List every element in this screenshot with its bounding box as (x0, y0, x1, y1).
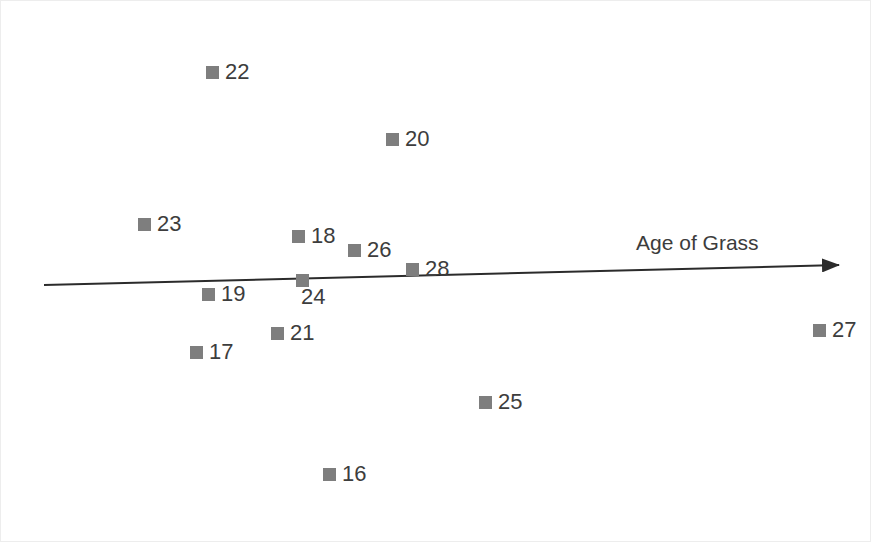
data-point-label: 28 (425, 258, 449, 280)
x-axis-label: Age of Grass (636, 231, 759, 255)
data-point-label: 26 (367, 239, 391, 261)
data-point-label: 19 (221, 283, 245, 305)
data-point-label: 24 (301, 286, 325, 308)
plot-area: Age of Grass 22202318262819242117272516 (1, 1, 871, 542)
data-point-label: 18 (311, 225, 335, 247)
data-point[interactable]: 26 (348, 239, 391, 261)
data-point[interactable]: 27 (813, 319, 856, 341)
data-point-marker-icon (138, 218, 151, 231)
data-point-marker-icon (813, 324, 826, 337)
data-point-marker-icon (348, 244, 361, 257)
data-point-marker-icon (271, 327, 284, 340)
data-point[interactable]: 20 (386, 128, 429, 150)
data-point-label: 22 (225, 61, 249, 83)
data-point-label: 16 (342, 463, 366, 485)
data-point[interactable]: 19 (202, 283, 245, 305)
data-point-marker-icon (406, 263, 419, 276)
data-point-label: 20 (405, 128, 429, 150)
data-point-label: 23 (157, 213, 181, 235)
data-point-label: 17 (209, 341, 233, 363)
data-point-label: 25 (498, 391, 522, 413)
data-point[interactable]: 24 (296, 274, 309, 287)
data-point[interactable]: 22 (206, 61, 249, 83)
data-point-marker-icon (206, 66, 219, 79)
data-point-marker-icon (323, 468, 336, 481)
data-point-label: 21 (290, 322, 314, 344)
data-point-marker-icon (479, 396, 492, 409)
data-point[interactable]: 16 (323, 463, 366, 485)
data-point-marker-icon (386, 133, 399, 146)
data-point-marker-icon (190, 346, 203, 359)
scatter-plot-figure: Age of Grass 22202318262819242117272516 (0, 0, 871, 542)
data-point[interactable]: 18 (292, 225, 335, 247)
data-point[interactable]: 23 (138, 213, 181, 235)
data-point-marker-icon (292, 230, 305, 243)
data-point[interactable]: 21 (271, 322, 314, 344)
data-point[interactable]: 17 (190, 341, 233, 363)
data-point-marker-icon (202, 288, 215, 301)
data-point[interactable]: 28 (406, 258, 449, 280)
data-point[interactable]: 25 (479, 391, 522, 413)
data-point-label: 27 (832, 319, 856, 341)
